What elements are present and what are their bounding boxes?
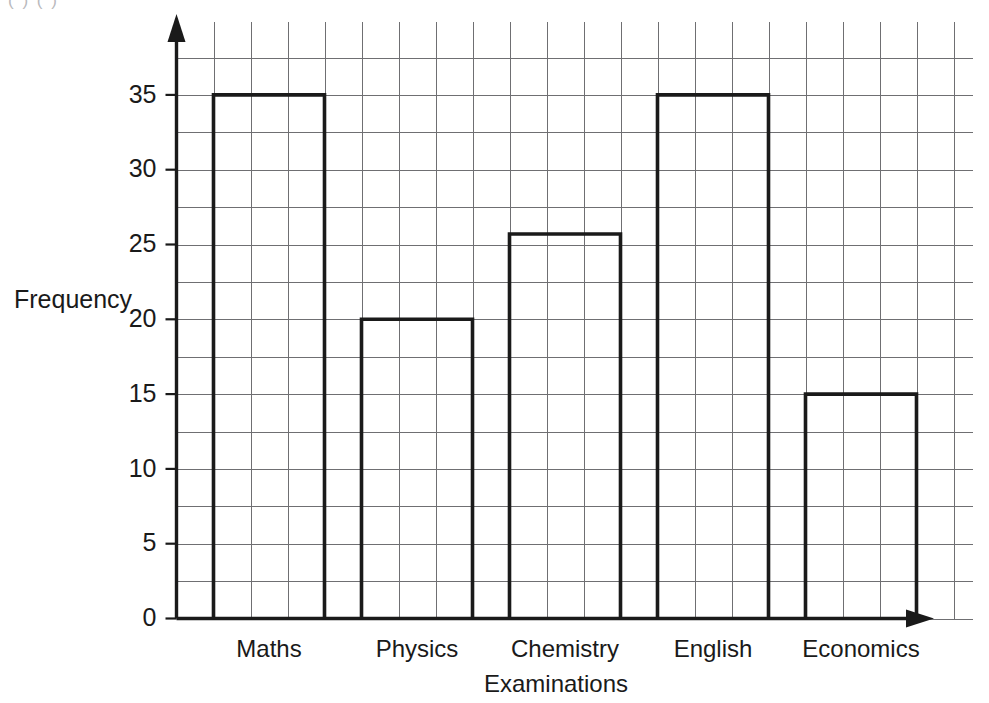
bar-series	[214, 95, 917, 619]
bar-chemistry	[510, 234, 621, 619]
bar-english	[658, 95, 769, 619]
x-axis-arrowhead	[906, 610, 934, 628]
chart-canvas: 05101520253035 MathsPhysicsChemistryEngl…	[0, 0, 989, 703]
bar-chart: 05101520253035 MathsPhysicsChemistryEngl…	[0, 0, 989, 703]
x-axis-label-chemistry: Chemistry	[511, 635, 619, 662]
chart-page: ( ) ( ) 05101520253035 MathsPhysicsChemi…	[0, 0, 989, 703]
x-axis-label-economics: Economics	[802, 635, 919, 662]
y-axis-tick-label-15: 15	[129, 379, 157, 407]
y-axis-tick-label-20: 20	[129, 304, 157, 332]
y-axis-tick-label-10: 10	[129, 454, 157, 482]
y-axis-tick-label-30: 30	[129, 154, 157, 182]
axes	[168, 14, 935, 628]
x-axis-label-english: English	[674, 635, 753, 662]
y-axis-tick-label-35: 35	[129, 80, 157, 108]
y-axis-arrowhead	[168, 14, 186, 42]
x-axis-label-physics: Physics	[376, 635, 459, 662]
y-axis-title: Frequency	[14, 285, 133, 313]
y-axis-tick-label-0: 0	[143, 603, 157, 631]
grid-lines	[177, 22, 974, 620]
x-axis-category-labels: MathsPhysicsChemistryEnglishEconomics	[236, 635, 919, 662]
y-axis-tick-label-25: 25	[129, 229, 157, 257]
bar-physics	[362, 319, 473, 618]
y-axis-tick-labels: 05101520253035	[129, 80, 157, 632]
x-axis-label-maths: Maths	[236, 635, 301, 662]
y-axis-tick-label-5: 5	[143, 528, 157, 556]
x-axis-title: Examinations	[484, 670, 628, 697]
bar-maths	[214, 95, 325, 619]
